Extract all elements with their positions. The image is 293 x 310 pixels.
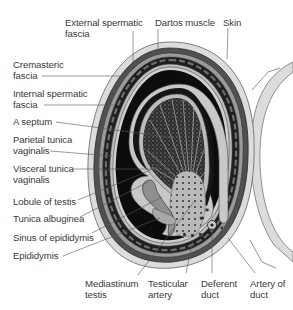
label-lobule-of-testis: Lobule of testis xyxy=(13,196,76,207)
label-dartos-muscle: Dartos muscle xyxy=(155,17,215,28)
label-tunica-albuginea: Tunica albuginea xyxy=(13,213,84,224)
leader-skin xyxy=(227,28,228,59)
label-skin: Skin xyxy=(223,17,241,28)
label-a-septum: A septum xyxy=(13,116,52,127)
label-mediastinum-testis: Mediastinum testis xyxy=(85,278,138,300)
label-epididymis: Epididymis xyxy=(13,250,58,261)
label-parietal-tunica-vaginalis: Parietal tunica vaginalis xyxy=(13,134,72,156)
artery-of-duct-shape xyxy=(220,226,224,230)
label-testicular-artery: Testicular artery xyxy=(148,278,188,300)
label-sinus-of-epididymis: Sinus of epididymis xyxy=(13,232,94,243)
label-deferent-duct: Deferent duct xyxy=(201,278,237,300)
label-visceral-tunica-vaginalis: Visceral tunica vaginalis xyxy=(13,163,74,185)
contralateral-compartment xyxy=(250,62,293,268)
label-cremasteric-fascia: Cremasteric fascia xyxy=(13,59,64,81)
mediastinum-testis-region xyxy=(170,171,206,237)
label-external-spermatic-fascia: External spermatic fascia xyxy=(65,17,143,39)
leader-artery-of-duct xyxy=(228,238,255,273)
label-internal-spermatic-fascia: Internal spermatic fascia xyxy=(13,88,87,110)
label-artery-of-duct: Artery of duct xyxy=(250,278,285,300)
